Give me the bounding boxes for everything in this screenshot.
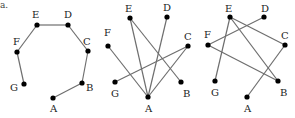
edge-d-f <box>208 17 264 45</box>
node-d <box>261 14 266 19</box>
edge-f-g <box>17 52 24 84</box>
node-label-b: B <box>183 88 190 99</box>
node-b <box>275 78 280 83</box>
edge-f-b <box>208 45 278 81</box>
node-label-d: D <box>64 9 72 20</box>
node-label-f: F <box>13 36 20 47</box>
node-a <box>50 95 55 100</box>
node-g <box>212 78 217 83</box>
node-label-a: A <box>144 103 153 114</box>
node-e <box>34 22 39 27</box>
node-g <box>21 81 26 86</box>
edge-e-f <box>17 25 37 52</box>
node-label-c: C <box>83 36 91 47</box>
node-f <box>14 49 19 54</box>
edge-e-g <box>215 17 230 81</box>
edge-a-b <box>53 83 82 98</box>
edge-b-c <box>82 51 88 83</box>
graph-2: ABCDEFG <box>104 2 192 114</box>
node-b <box>178 79 183 84</box>
node-e <box>127 15 132 20</box>
node-c <box>185 43 190 48</box>
node-label-g: G <box>211 87 219 98</box>
node-c <box>85 48 90 53</box>
node-a <box>145 94 150 99</box>
node-label-c: C <box>184 31 192 42</box>
node-label-a: A <box>243 103 252 114</box>
edge-e-c <box>230 17 285 45</box>
node-label-f: F <box>204 29 211 40</box>
edge-e-b <box>230 17 278 81</box>
part-label: a. <box>0 0 8 10</box>
node-c <box>282 42 287 47</box>
node-label-b: B <box>280 87 287 98</box>
node-a <box>244 94 249 99</box>
graph-3: ABCDEFG <box>204 3 289 114</box>
graph-1: ABCDEFG <box>10 9 93 114</box>
node-label-b: B <box>86 82 93 93</box>
node-label-d: D <box>261 3 269 14</box>
node-e <box>227 14 232 19</box>
node-f <box>205 42 210 47</box>
node-label-g: G <box>111 88 119 99</box>
node-f <box>105 43 110 48</box>
node-label-d: D <box>163 2 171 13</box>
node-b <box>79 80 84 85</box>
node-label-c: C <box>281 30 289 41</box>
node-label-e: E <box>225 3 232 14</box>
graph-diagram: a. ABCDEFG ABCDEFG ABCDEFG <box>0 0 295 118</box>
node-label-e: E <box>32 9 39 20</box>
node-d <box>65 22 70 27</box>
node-d <box>164 14 169 19</box>
node-label-e: E <box>125 3 132 14</box>
node-g <box>112 79 117 84</box>
node-label-a: A <box>49 103 58 114</box>
node-label-f: F <box>104 27 111 38</box>
node-label-g: G <box>10 82 18 93</box>
